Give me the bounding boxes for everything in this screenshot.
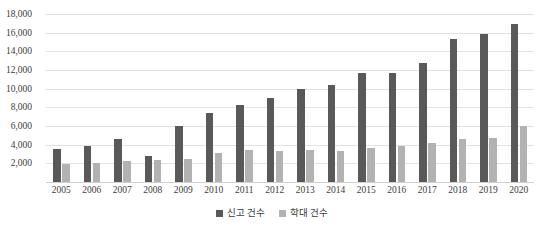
- legend-label: 신고 건수: [227, 208, 265, 219]
- legend-swatch-icon: [216, 210, 223, 217]
- x-axis-labels: 2005200620072008200920102011201220132014…: [46, 184, 534, 200]
- bar-group: [229, 14, 260, 182]
- bar-group: [290, 14, 321, 182]
- bar[interactable]: [245, 150, 253, 182]
- bar[interactable]: [175, 126, 183, 182]
- bar[interactable]: [489, 138, 497, 182]
- bar[interactable]: [459, 139, 467, 182]
- bar[interactable]: [206, 113, 214, 182]
- bar-group: [443, 14, 474, 182]
- axis-baseline: [46, 182, 534, 183]
- bar[interactable]: [306, 150, 314, 182]
- bar[interactable]: [114, 139, 122, 182]
- bar-group: [138, 14, 169, 182]
- x-axis-tick-label: 2008: [138, 184, 169, 196]
- x-axis-tick-label: 2006: [77, 184, 108, 196]
- bars-layer: [46, 14, 534, 182]
- x-axis-tick-label: 2019: [473, 184, 504, 196]
- chart-legend: 신고 건수학대 건수: [0, 208, 544, 219]
- x-axis-tick-label: 2011: [229, 184, 260, 196]
- bar[interactable]: [62, 164, 70, 182]
- bar-group: [46, 14, 77, 182]
- bar[interactable]: [398, 146, 406, 182]
- x-axis-tick-label: 2020: [504, 184, 535, 196]
- bar-group: [77, 14, 108, 182]
- bar-group: [473, 14, 504, 182]
- plot-area: 18,00016,00014,00012,00010,0008,0006,000…: [46, 14, 534, 182]
- bar-group: [168, 14, 199, 182]
- bar[interactable]: [419, 63, 427, 182]
- bar[interactable]: [276, 151, 284, 182]
- bar[interactable]: [520, 126, 528, 182]
- bar[interactable]: [428, 143, 436, 182]
- bar[interactable]: [123, 161, 131, 182]
- y-axis-tick-label: 16,000: [0, 28, 32, 38]
- bar-group: [504, 14, 535, 182]
- bar[interactable]: [236, 105, 244, 182]
- bar[interactable]: [328, 85, 336, 182]
- bar-group: [107, 14, 138, 182]
- bar[interactable]: [337, 151, 345, 182]
- legend-item[interactable]: 학대 건수: [279, 208, 328, 219]
- y-axis-tick-label: 4,000: [0, 140, 32, 150]
- bar[interactable]: [215, 153, 223, 182]
- y-axis-tick-label: 8,000: [0, 102, 32, 112]
- y-axis-tick-label: 2,000: [0, 158, 32, 168]
- bar[interactable]: [154, 160, 162, 182]
- x-axis-tick-label: 2016: [382, 184, 413, 196]
- y-axis-tick-label: 10,000: [0, 84, 32, 94]
- x-axis-tick-label: 2017: [412, 184, 443, 196]
- bar-group: [382, 14, 413, 182]
- x-axis-tick-label: 2010: [199, 184, 230, 196]
- bar[interactable]: [297, 89, 305, 182]
- bar-group: [351, 14, 382, 182]
- bar[interactable]: [358, 73, 366, 182]
- legend-label: 학대 건수: [290, 208, 328, 219]
- bar[interactable]: [511, 24, 519, 182]
- bar-group: [321, 14, 352, 182]
- bar[interactable]: [267, 98, 275, 182]
- x-axis-tick-label: 2018: [443, 184, 474, 196]
- x-axis-tick-label: 2009: [168, 184, 199, 196]
- bar[interactable]: [93, 163, 101, 182]
- x-axis-tick-label: 2014: [321, 184, 352, 196]
- bar[interactable]: [367, 148, 375, 182]
- y-axis-tick-label: 6,000: [0, 121, 32, 131]
- x-axis-tick-label: 2012: [260, 184, 291, 196]
- y-axis-tick-label: 14,000: [0, 46, 32, 56]
- bar[interactable]: [145, 156, 153, 182]
- bar-chart: 18,00016,00014,00012,00010,0008,0006,000…: [0, 0, 544, 238]
- bar[interactable]: [480, 34, 488, 182]
- bar[interactable]: [53, 149, 61, 182]
- x-axis-tick-label: 2005: [46, 184, 77, 196]
- bar[interactable]: [450, 39, 458, 182]
- y-axis-tick-label: 18,000: [0, 9, 32, 19]
- x-axis-tick-label: 2007: [107, 184, 138, 196]
- bar[interactable]: [84, 146, 92, 182]
- x-axis-tick-label: 2015: [351, 184, 382, 196]
- legend-item[interactable]: 신고 건수: [216, 208, 265, 219]
- y-axis-tick-label: 12,000: [0, 65, 32, 75]
- bar[interactable]: [184, 159, 192, 182]
- bar[interactable]: [389, 73, 397, 182]
- bar-group: [412, 14, 443, 182]
- bar-group: [199, 14, 230, 182]
- x-axis-tick-label: 2013: [290, 184, 321, 196]
- legend-swatch-icon: [279, 210, 286, 217]
- bar-group: [260, 14, 291, 182]
